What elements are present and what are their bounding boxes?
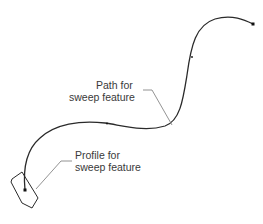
profile-leader-line <box>36 161 72 189</box>
path-start-point <box>24 189 27 192</box>
profile-label-line2: sweep feature <box>75 161 141 173</box>
diagram-graphics <box>0 0 263 224</box>
profile-label: Profile for sweep feature <box>75 149 141 173</box>
profile-label-line1: Profile for <box>75 149 141 161</box>
path-tick <box>191 56 193 58</box>
path-tick <box>106 123 108 125</box>
path-label: Path for sweep feature <box>69 79 135 103</box>
path-label-line2: sweep feature <box>69 91 135 103</box>
path-label-line1: Path for <box>69 79 135 91</box>
sweep-feature-diagram: Path for sweep feature Profile for sweep… <box>0 0 263 224</box>
path-end-point <box>252 23 255 26</box>
path-leader-line <box>143 90 172 125</box>
